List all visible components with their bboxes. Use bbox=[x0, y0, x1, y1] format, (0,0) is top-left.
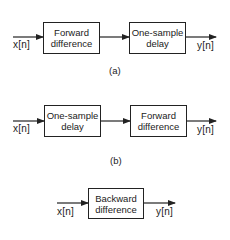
block-forward-difference-b: Forward difference bbox=[130, 105, 187, 137]
input-label-a: x[n] bbox=[13, 39, 30, 50]
input-label-c: x[n] bbox=[57, 206, 74, 217]
block-a1-line1: Forward bbox=[54, 27, 89, 38]
input-label-b: x[n] bbox=[13, 123, 30, 134]
block-b1-line2: delay bbox=[61, 121, 84, 132]
block-c1-line1: Backward bbox=[95, 193, 137, 204]
block-one-sample-delay-a: One-sample delay bbox=[129, 22, 186, 54]
block-a2-line1: One-sample bbox=[132, 27, 184, 38]
block-one-sample-delay-b: One-sample delay bbox=[44, 105, 101, 137]
caption-b: (b) bbox=[110, 155, 122, 166]
block-backward-difference: Backward difference bbox=[88, 188, 144, 219]
block-b2-line1: Forward bbox=[141, 110, 176, 121]
block-b2-line2: difference bbox=[138, 121, 180, 132]
block-forward-difference-a: Forward difference bbox=[43, 22, 100, 54]
block-a2-line2: delay bbox=[146, 38, 169, 49]
block-b1-line1: One-sample bbox=[47, 110, 99, 121]
output-label-a: y[n] bbox=[197, 40, 214, 51]
output-label-c: y[n] bbox=[156, 206, 173, 217]
caption-a: (a) bbox=[109, 65, 121, 76]
block-c1-line2: difference bbox=[95, 204, 137, 215]
output-label-b: y[n] bbox=[197, 124, 214, 135]
block-a1-line2: difference bbox=[51, 38, 93, 49]
